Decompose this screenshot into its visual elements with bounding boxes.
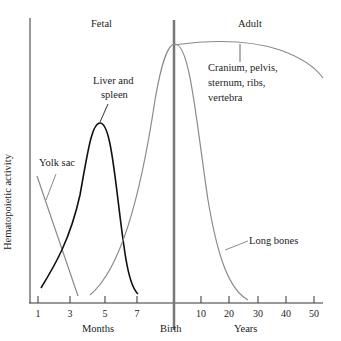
y-axis-label: Hematopoietic activity [2, 154, 13, 250]
fetal-label: Fetal [91, 18, 112, 30]
tick-1: 1 [36, 308, 41, 319]
tick-40: 40 [281, 308, 291, 319]
tick-10: 10 [196, 308, 206, 319]
yolk-sac-label: Yolk sac [39, 157, 75, 169]
tick-50: 50 [309, 308, 319, 319]
tick-5: 5 [103, 308, 108, 319]
birth-label: Birth [160, 323, 182, 335]
liver-leader [100, 104, 108, 122]
long-bones-leader [225, 241, 248, 250]
years-label: Years [234, 323, 257, 335]
liver-label-line2: spleen [101, 89, 128, 101]
yolk-sac-leader [46, 174, 56, 200]
cranium-label-line2: sternum, ribs, [208, 77, 265, 89]
liver-label-line1: Liver and [93, 75, 134, 87]
adult-label: Adult [238, 18, 262, 30]
cranium-label-line1: Cranium, pelvis, [208, 62, 278, 74]
tick-7: 7 [135, 308, 140, 319]
months-label: Months [82, 323, 114, 335]
tick-30: 30 [253, 308, 263, 319]
chart-plot [0, 0, 341, 341]
x-ticks [38, 296, 314, 303]
liver-spleen-curve [41, 123, 138, 294]
hematopoiesis-chart: Fetal Adult Liver and spleen Yolk sac Cr… [0, 0, 341, 341]
cranium-label-line3: vertebra [208, 92, 242, 104]
tick-3: 3 [68, 308, 73, 319]
tick-20: 20 [224, 308, 234, 319]
yolk-sac-curve [37, 176, 78, 296]
long-bones-label: Long bones [249, 235, 298, 247]
